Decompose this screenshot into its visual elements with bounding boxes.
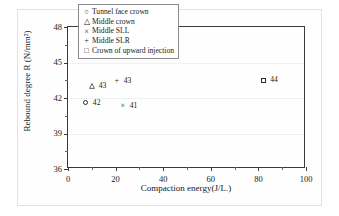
y-axis-minor-tick [65, 80, 68, 81]
y-axis-tick [64, 134, 68, 135]
legend-item-0: ○Tunnel face crown [82, 7, 174, 17]
marker-cross-icon: × [119, 102, 127, 110]
x-axis-tick [211, 167, 212, 171]
y-gridline [68, 63, 304, 64]
x-axis-minor-tick [92, 167, 93, 170]
chart-figure: 36394245480204060801004243×41+4344 Compa… [0, 0, 339, 216]
x-axis-tick [258, 167, 259, 171]
x-axis-tick-label: 40 [148, 175, 178, 184]
legend-item-label: Middle SLL [92, 26, 129, 36]
legend-marker-icon: ○ [82, 7, 91, 17]
y-axis-tick-label: 36 [24, 165, 62, 174]
legend-marker-icon: + [82, 36, 91, 46]
x-axis-minor-tick [187, 167, 188, 170]
y-axis-tick [64, 27, 68, 28]
y-axis-title: Rebound degree R (N/mm²) [22, 6, 32, 156]
legend-item-2: ×Middle SLL [82, 26, 174, 36]
x-axis-tick-label: 20 [101, 175, 131, 184]
y-axis-minor-tick [65, 116, 68, 117]
data-point-label: 44 [270, 75, 278, 84]
marker-square-icon [261, 78, 266, 83]
x-axis-tick [163, 167, 164, 171]
x-axis-minor-tick [282, 167, 283, 170]
y-axis-tick [64, 98, 68, 99]
legend-marker-icon: □ [82, 46, 91, 56]
x-axis-tick-label: 80 [243, 175, 273, 184]
legend-item-label: Crown of upward injection [92, 46, 174, 56]
legend-marker-icon: △ [82, 17, 91, 27]
y-gridline [68, 134, 304, 135]
marker-circle-icon [83, 100, 88, 105]
marker-plus-icon: + [113, 77, 121, 85]
x-axis-tick [306, 167, 307, 171]
legend-marker-icon: × [82, 27, 91, 37]
y-axis-tick [64, 63, 68, 64]
legend-item-4: □Crown of upward injection [82, 46, 174, 56]
data-point-label: 43 [99, 81, 107, 90]
x-axis-tick-label: 100 [291, 175, 321, 184]
legend-item-1: △Middle crown [82, 17, 174, 27]
y-gridline [68, 98, 304, 99]
x-axis-title: Compaction energy(J/L.) [67, 183, 305, 193]
x-axis-tick [68, 167, 69, 171]
legend-item-label: Tunnel face crown [92, 7, 149, 17]
legend-item-label: Middle SLR [92, 36, 130, 46]
marker-triangle-icon [89, 83, 95, 89]
x-axis-tick-label: 0 [53, 175, 83, 184]
x-axis-tick [116, 167, 117, 171]
y-axis-minor-tick [65, 151, 68, 152]
data-point-label: 42 [93, 98, 101, 107]
x-axis-minor-tick [235, 167, 236, 170]
x-axis-minor-tick [139, 167, 140, 170]
legend-item-3: +Middle SLR [82, 36, 174, 46]
y-axis-minor-tick [65, 45, 68, 46]
chart-legend: ○Tunnel face crown△Middle crown×Middle S… [78, 4, 179, 59]
data-point-label: 43 [124, 76, 132, 85]
data-point-label: 41 [130, 101, 138, 110]
x-axis-tick-label: 60 [196, 175, 226, 184]
legend-item-label: Middle crown [92, 17, 135, 27]
